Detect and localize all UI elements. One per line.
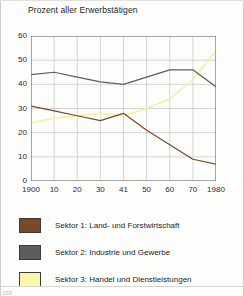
x-tick-label: 60	[157, 185, 183, 194]
y-tick-label: 30	[7, 105, 27, 113]
x-tick-label: 30	[87, 185, 113, 194]
page-edge-left	[0, 0, 1, 296]
y-tick-label: 40	[7, 80, 27, 88]
y-tick-label: 10	[7, 153, 27, 161]
y-tick-label: 0	[7, 177, 27, 185]
y-axis-tick-labels: 0102030405060	[5, 36, 27, 181]
x-tick-label: 1900	[18, 185, 44, 194]
chart-legend: Sektor 1: Land- und ForstwirtschaftSekto…	[19, 215, 229, 296]
page-edge-top	[0, 0, 244, 1]
legend-label: Sektor 1: Land- und Forstwirtschaft	[55, 221, 180, 230]
x-tick-label: 50	[134, 185, 160, 194]
legend-swatch	[19, 245, 41, 260]
legend-label: Sektor 3: Handel und Dienstleistungen	[55, 275, 192, 284]
x-tick-label: 70	[180, 185, 206, 194]
chart-title: Prozent aller Erwerbstätigen	[28, 5, 138, 15]
y-tick-label: 20	[7, 129, 27, 137]
line-chart-svg	[31, 36, 216, 181]
x-axis-tick-labels: 1900102030415060701980	[14, 185, 236, 197]
y-tick-label: 50	[7, 56, 27, 64]
footer-rule	[0, 286, 244, 287]
legend-swatch	[19, 218, 41, 233]
page-number: 159	[2, 290, 12, 296]
grid-lines	[31, 36, 216, 181]
legend-label: Sektor 2: Industrie und Gewerbe	[55, 248, 170, 257]
legend-item-2[interactable]: Sektor 2: Industrie und Gewerbe	[19, 242, 229, 262]
page-edge-right	[243, 0, 244, 296]
y-tick-label: 60	[7, 32, 27, 40]
chart-page: Prozent aller Erwerbstätigen 01020304050…	[0, 0, 244, 296]
plot-area	[31, 36, 216, 181]
legend-swatch	[19, 272, 41, 287]
x-tick-label: 10	[41, 185, 67, 194]
x-tick-label: 41	[111, 185, 137, 194]
x-tick-label: 1980	[203, 185, 229, 194]
legend-item-1[interactable]: Sektor 1: Land- und Forstwirtschaft	[19, 215, 229, 235]
x-tick-label: 20	[64, 185, 90, 194]
